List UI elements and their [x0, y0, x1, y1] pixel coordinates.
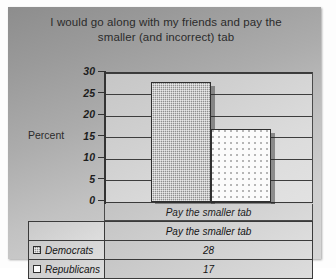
- y-axis-line: 051015202530: [104, 71, 106, 204]
- y-axis-tick-label: 25: [83, 87, 95, 99]
- legend-swatch-icon-republicans: [33, 265, 41, 273]
- table-value-republicans: 17: [105, 260, 312, 278]
- chart-title-line-1: I would go along with my friends and pay…: [26, 15, 306, 30]
- chart-canvas: I would go along with my friends and pay…: [8, 7, 321, 259]
- gridline: [105, 73, 312, 74]
- y-axis-tick: [98, 135, 104, 136]
- chart-title-line-2: smaller (and incorrect) tab: [26, 30, 306, 45]
- y-axis-tick: [98, 114, 104, 115]
- data-table: Pay the smaller tab Democrats 28 Republi…: [28, 221, 313, 279]
- y-axis-tick-label: 20: [83, 108, 95, 120]
- table-row: Republicans 17: [29, 259, 312, 278]
- table-header-category: Pay the smaller tab: [105, 222, 312, 240]
- bar-fill: [211, 129, 271, 202]
- y-axis-tick-label: 10: [83, 151, 95, 163]
- bar-fill: [151, 82, 211, 202]
- y-axis-tick-label: 15: [83, 130, 95, 142]
- legend-item-democrats: Democrats: [29, 241, 105, 259]
- y-axis-tick-label: 5: [89, 173, 95, 185]
- category-axis-label: Pay the smaller tab: [104, 204, 313, 221]
- table-row-header: Pay the smaller tab: [29, 222, 312, 240]
- bar-shadow: [271, 133, 275, 206]
- table-header-blank: [29, 222, 105, 240]
- y-axis-tick: [98, 92, 104, 93]
- y-axis-tick: [98, 157, 104, 158]
- y-axis-tick: [98, 200, 104, 201]
- legend-item-republicans: Republicans: [29, 260, 105, 278]
- table-row: Democrats 28: [29, 240, 312, 259]
- y-axis-tick-label: 30: [83, 65, 95, 77]
- legend-label-republicans: Republicans: [45, 264, 100, 275]
- legend-label-democrats: Democrats: [45, 245, 93, 256]
- plot-area: [104, 72, 313, 203]
- y-axis-tick-label: 0: [89, 194, 95, 206]
- legend-swatch-icon-democrats: [33, 246, 41, 254]
- bar-democrats: [151, 82, 211, 202]
- chart-title: I would go along with my friends and pay…: [26, 15, 306, 45]
- y-axis-title: Percent: [28, 129, 64, 141]
- bar-republicans: [211, 129, 271, 202]
- table-value-democrats: 28: [105, 241, 312, 259]
- y-axis-tick: [98, 71, 104, 72]
- y-axis-tick: [98, 178, 104, 179]
